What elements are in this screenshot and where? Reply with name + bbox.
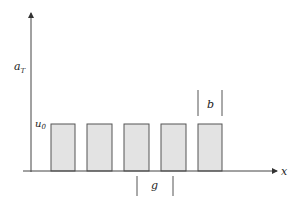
x-axis-label: x — [281, 165, 288, 178]
pulse-bar-2 — [87, 124, 112, 171]
gap-marker: g — [137, 176, 173, 196]
pulse-bar-1 — [51, 124, 75, 171]
gap-label: g — [151, 179, 158, 192]
width-marker: b — [198, 90, 222, 116]
pulse-bar-3 — [124, 124, 149, 171]
y-axis-label: aT — [14, 60, 27, 75]
rectangular-pulse-diagram: aT u0 x b g — [0, 0, 299, 205]
pulse-bars — [51, 124, 222, 171]
pulse-bar-5 — [198, 124, 222, 171]
width-label: b — [207, 98, 214, 111]
pulse-bar-4 — [161, 124, 186, 171]
diagram-canvas: aT u0 x b g — [0, 0, 299, 205]
level-label: u0 — [35, 118, 46, 131]
